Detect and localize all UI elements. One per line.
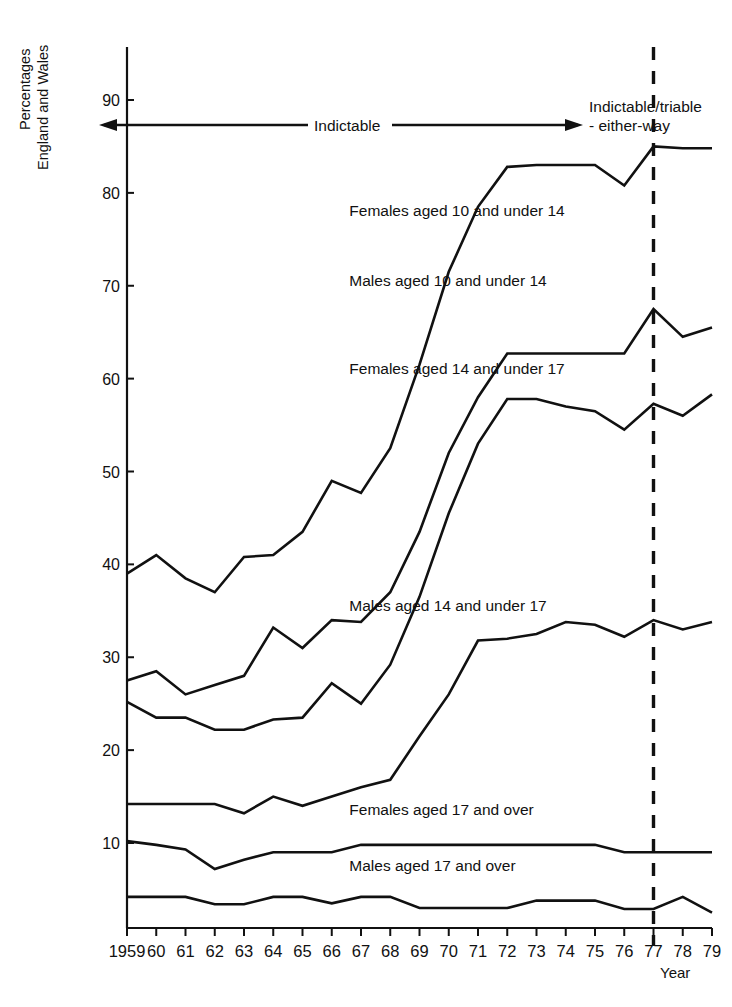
x-tick-label: 74 — [557, 942, 575, 960]
x-tick-label: 71 — [469, 942, 487, 960]
x-tick-label: 70 — [440, 942, 458, 960]
indictable-span-annotation: Indictable — [99, 117, 583, 134]
x-tick-label: 68 — [381, 942, 399, 960]
x-tick-label: 62 — [206, 942, 224, 960]
y-tick-label: 50 — [102, 464, 120, 481]
y-tick-label: 40 — [102, 556, 120, 573]
figure-container: Percentages England and Wales 1020304050… — [0, 0, 732, 1007]
line-chart: Percentages England and Wales 1020304050… — [0, 0, 732, 1007]
y-tick-label: 90 — [102, 92, 120, 109]
y-axis-title-line1: Percentages — [17, 49, 33, 130]
series-label: Females aged 14 and under 17 — [349, 360, 564, 377]
x-tick-label: 65 — [293, 942, 311, 960]
y-axis-title-line2: England and Wales — [35, 45, 51, 170]
x-tick-label: 1959 — [109, 942, 146, 960]
x-tick-label: 60 — [147, 942, 165, 960]
x-tick-label: 67 — [352, 942, 370, 960]
series-label: Males aged 10 and under 14 — [349, 272, 547, 289]
series-label: Females aged 10 and under 14 — [349, 202, 565, 219]
x-tick-label: 61 — [176, 942, 194, 960]
series-label: Males aged 14 and under 17 — [349, 597, 546, 614]
x-tick-label: 66 — [323, 942, 341, 960]
x-tick-label: 64 — [264, 942, 282, 960]
series-label-group: Females aged 10 and under 14Males aged 1… — [349, 202, 565, 874]
either-way-label-line1: Indictable/triable — [589, 98, 702, 115]
x-tick-label: 76 — [615, 942, 633, 960]
x-tick-label: 75 — [586, 942, 604, 960]
series-line — [127, 394, 712, 729]
series-label: Females aged 17 and over — [349, 801, 533, 818]
series-label: Males aged 17 and over — [349, 857, 515, 874]
either-way-label-line2: - either-way — [589, 117, 670, 134]
y-tick-label: 20 — [102, 742, 120, 759]
y-tick-label: 30 — [102, 649, 120, 666]
series-group — [127, 146, 712, 912]
indictable-label: Indictable — [314, 117, 380, 134]
x-tick-group: 1959606162636465666768697071727374757677… — [109, 928, 722, 960]
series-line — [127, 620, 712, 813]
x-tick-label: 72 — [498, 942, 516, 960]
y-tick-label: 80 — [102, 185, 120, 202]
y-axis-title: Percentages England and Wales — [17, 45, 51, 170]
y-tick-label: 10 — [102, 835, 120, 852]
y-tick-group: 102030405060708090 — [102, 92, 134, 852]
y-tick-label: 60 — [102, 371, 120, 388]
x-axis-title: Year — [660, 964, 690, 981]
x-tick-label: 63 — [235, 942, 253, 960]
x-tick-label: 79 — [703, 942, 721, 960]
either-way-annotation: Indictable/triable - either-way — [589, 98, 702, 134]
axes — [127, 47, 712, 928]
series-line — [127, 897, 712, 913]
x-tick-label: 78 — [674, 942, 692, 960]
indictable-arrow-left-head — [99, 119, 117, 131]
y-tick-label: 70 — [102, 278, 120, 295]
x-tick-label: 73 — [527, 942, 545, 960]
x-tick-label: 69 — [410, 942, 428, 960]
indictable-arrow-right-head — [565, 119, 583, 131]
